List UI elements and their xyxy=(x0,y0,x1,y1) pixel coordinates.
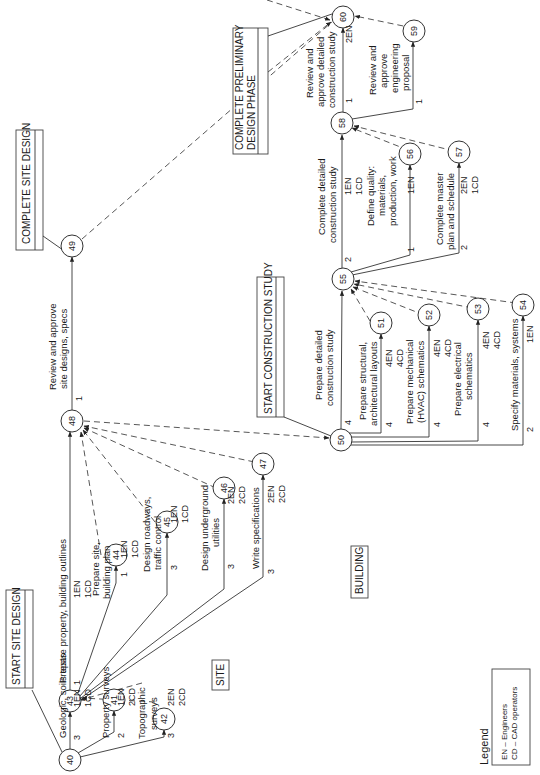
svg-text:3: 3 xyxy=(266,569,276,574)
svg-text:57: 57 xyxy=(454,147,464,157)
svg-text:1: 1 xyxy=(406,247,416,252)
svg-text:approve detailed: approve detailed xyxy=(315,37,326,107)
svg-text:50: 50 xyxy=(336,435,346,445)
svg-text:48: 48 xyxy=(67,416,77,426)
svg-text:Property surveys: Property surveys xyxy=(100,666,111,738)
svg-text:BUILDING: BUILDING xyxy=(354,547,365,594)
svg-text:Prepare detailed: Prepare detailed xyxy=(313,330,324,400)
svg-text:2EN: 2EN xyxy=(226,486,236,504)
svg-text:1: 1 xyxy=(119,572,129,577)
svg-text:1EN: 1EN xyxy=(72,580,82,598)
svg-text:Prepare mechanical: Prepare mechanical xyxy=(404,340,415,425)
svg-text:Prepare property, building out: Prepare property, building outlines xyxy=(57,539,68,683)
node-50: 50 xyxy=(330,429,352,451)
svg-text:4: 4 xyxy=(432,422,442,427)
svg-text:building plan: building plan xyxy=(101,546,112,599)
svg-text:Review and: Review and xyxy=(304,48,315,98)
svg-text:1CD: 1CD xyxy=(83,688,93,707)
svg-text:approve: approve xyxy=(378,54,389,88)
svg-text:surveys: surveys xyxy=(148,697,159,730)
svg-text:Complete detailed: Complete detailed xyxy=(316,158,327,235)
svg-text:1EN: 1EN xyxy=(72,689,82,707)
node-48: 48 xyxy=(61,410,83,432)
svg-text:2: 2 xyxy=(525,427,535,432)
svg-text:52: 52 xyxy=(424,310,434,320)
node-52: 52 xyxy=(418,304,440,326)
svg-text:(HVAC) schematics: (HVAC) schematics xyxy=(415,341,426,423)
svg-text:47: 47 xyxy=(258,459,268,469)
svg-text:56: 56 xyxy=(405,149,415,159)
svg-text:4EN: 4EN xyxy=(481,331,491,349)
svg-text:architectural layouts: architectural layouts xyxy=(368,341,379,426)
svg-text:1EN: 1EN xyxy=(119,540,129,558)
activity-labels: Geologic, soils tests 3 1EN 1CD Property… xyxy=(47,25,535,740)
svg-text:traffic control: traffic control xyxy=(152,516,163,570)
svg-text:3: 3 xyxy=(169,565,179,570)
svg-text:1EN: 1EN xyxy=(116,688,126,706)
svg-text:schematics: schematics xyxy=(463,352,474,400)
svg-text:42: 42 xyxy=(159,714,169,724)
node-53: 53 xyxy=(467,298,489,320)
svg-text:site designs, specs: site designs, specs xyxy=(58,308,69,389)
svg-text:4EN: 4EN xyxy=(432,339,442,357)
node-57: 57 xyxy=(448,141,470,163)
node-56: 56 xyxy=(399,143,421,165)
legend-title: Legend xyxy=(478,728,490,765)
svg-text:60: 60 xyxy=(338,12,348,22)
svg-text:58: 58 xyxy=(337,118,347,128)
svg-text:1CD: 1CD xyxy=(180,504,190,523)
svg-text:1CD: 1CD xyxy=(130,539,140,558)
svg-text:Complete master: Complete master xyxy=(434,173,445,245)
svg-text:Design underground: Design underground xyxy=(199,485,210,571)
svg-text:Review and: Review and xyxy=(367,45,378,95)
svg-text:1EN: 1EN xyxy=(169,505,179,523)
svg-text:Specify materials, systems: Specify materials, systems xyxy=(509,318,520,431)
svg-text:proposal: proposal xyxy=(400,55,411,91)
svg-text:Topographic: Topographic xyxy=(136,687,147,739)
svg-text:2EN: 2EN xyxy=(266,485,276,503)
svg-text:51: 51 xyxy=(376,318,386,328)
section-label-site: SITE xyxy=(212,660,229,690)
svg-text:2CD: 2CD xyxy=(237,485,247,504)
svg-text:2EN: 2EN xyxy=(166,688,176,706)
legend-item-cd: CD – CAD operators xyxy=(510,687,519,760)
svg-text:2: 2 xyxy=(459,245,469,250)
svg-text:1: 1 xyxy=(344,98,354,103)
svg-text:COMPLETE PRELIMINARY: COMPLETE PRELIMINARY xyxy=(234,24,245,150)
node-51: 51 xyxy=(370,312,392,334)
svg-text:COMPLETE SITE DESIGN: COMPLETE SITE DESIGN xyxy=(21,123,32,244)
svg-text:Prepare electrical: Prepare electrical xyxy=(452,342,463,416)
svg-text:Prepare site,: Prepare site, xyxy=(90,542,101,596)
svg-text:engineering: engineering xyxy=(389,43,400,93)
node-60: 60 xyxy=(332,6,354,28)
svg-text:54: 54 xyxy=(518,300,528,310)
svg-text:Review and approve: Review and approve xyxy=(47,303,58,390)
svg-text:construction study: construction study xyxy=(324,329,335,406)
svg-text:2: 2 xyxy=(343,257,353,262)
svg-text:40: 40 xyxy=(65,755,75,765)
svg-text:1: 1 xyxy=(74,396,84,401)
svg-text:1CD: 1CD xyxy=(470,175,480,194)
node-47: 47 xyxy=(252,453,274,475)
svg-text:Prepare structural,: Prepare structural, xyxy=(357,342,368,420)
svg-text:materials,: materials, xyxy=(376,175,387,216)
svg-text:2EN: 2EN xyxy=(344,25,354,43)
svg-text:59: 59 xyxy=(409,26,419,36)
node-49: 49 xyxy=(61,235,83,257)
svg-text:4EN: 4EN xyxy=(384,349,394,367)
svg-text:4CD: 4CD xyxy=(492,330,502,349)
svg-text:2CD: 2CD xyxy=(277,484,287,503)
svg-text:49: 49 xyxy=(67,241,77,251)
svg-text:4: 4 xyxy=(343,420,353,425)
svg-text:production, work: production, work xyxy=(387,156,398,226)
node-59: 59 xyxy=(403,20,425,42)
svg-text:1CD: 1CD xyxy=(354,176,364,195)
node-54: 54 xyxy=(512,294,534,316)
node-58: 58 xyxy=(331,112,353,134)
node-40: 40 xyxy=(59,749,81,771)
svg-text:construction study: construction study xyxy=(326,31,337,108)
svg-text:utilities: utilities xyxy=(210,518,221,547)
svg-text:Define quality:: Define quality: xyxy=(365,166,376,226)
svg-text:1: 1 xyxy=(72,680,82,685)
svg-text:2CD: 2CD xyxy=(177,687,187,706)
